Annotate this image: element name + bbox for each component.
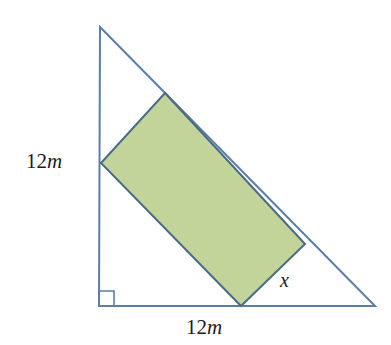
label-left-side-length: 12m <box>26 151 62 172</box>
right-angle-marker-icon <box>99 291 114 306</box>
label-bottom-side-unit: m <box>207 315 222 339</box>
label-rectangle-side-x: x <box>280 270 289 290</box>
label-bottom-side-number: 12 <box>186 315 207 339</box>
label-left-side-unit: m <box>47 149 62 173</box>
inscribed-rectangle-shape <box>101 93 305 306</box>
label-bottom-side-length: 12m <box>186 317 222 338</box>
label-left-side-number: 12 <box>26 149 47 173</box>
geometry-figure: 12m 12m x <box>0 0 391 345</box>
